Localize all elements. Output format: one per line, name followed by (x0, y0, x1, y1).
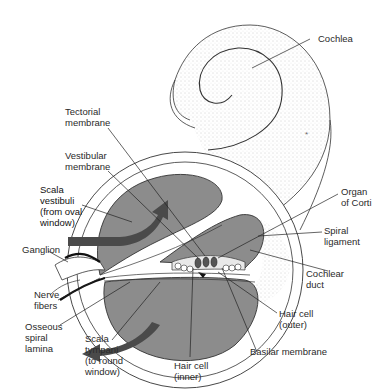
label-scala-tympani: Scala tympani (to round window) (85, 333, 123, 377)
label-tectorial-membrane: Tectorial membrane (65, 106, 110, 128)
label-ganglion: Ganglion (22, 244, 60, 255)
label-organ-of-corti: Organ of Corti (341, 186, 372, 208)
label-scala-vestibuli: Scala vestibuli (from oval window) (40, 184, 82, 228)
label-hair-cell-outer: Hair cell (outer) (279, 308, 313, 330)
label-cochlea: Cochlea (318, 33, 353, 44)
label-basilar-membrane: Basilar membrane (250, 346, 327, 357)
label-vestibular-membrane: Vestibular membrane (65, 150, 110, 172)
label-hair-cell-inner: Hair cell (inner) (174, 360, 208, 382)
svg-text:*: * (305, 130, 308, 139)
label-osseous-spiral-lamina: Osseous spiral lamina (25, 321, 63, 354)
label-cochlear-duct: Cochlear duct (306, 268, 344, 290)
label-spiral-ligament: Spiral ligament (324, 225, 360, 247)
label-nerve-fibers: Nerve fibers (34, 289, 59, 311)
